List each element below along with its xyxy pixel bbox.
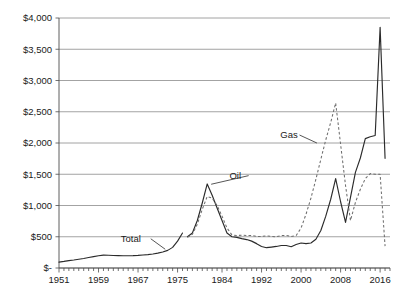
x-tick-label-1959: 1959 <box>88 274 109 285</box>
x-tick-label-2000: 2000 <box>291 274 312 285</box>
y-axis-tick-labels: $-$500$1,000$1,500$2,000$2,500$3,000$3,5… <box>23 12 52 273</box>
total-label: Total <box>121 233 141 244</box>
x-tick-label-1967: 1967 <box>127 274 148 285</box>
y-tick-label-500: $500 <box>31 231 52 242</box>
y-tick-label-1000: $1,000 <box>23 200 52 211</box>
gas-label: Gas <box>280 129 298 140</box>
y-tick-label-3000: $3,000 <box>23 75 52 86</box>
y-tick-label-1500: $1,500 <box>23 169 52 180</box>
y-tick-label-2500: $2,500 <box>23 106 52 117</box>
x-tick-label-1951: 1951 <box>48 274 69 285</box>
x-tick-label-2016: 2016 <box>370 274 391 285</box>
axis-tick-marks <box>56 18 391 273</box>
series-annotations: TotalOilGas <box>121 129 317 249</box>
line-chart-figure: $-$500$1,000$1,500$2,000$2,500$3,000$3,5… <box>0 0 415 302</box>
chart-canvas: $-$500$1,000$1,500$2,000$2,500$3,000$3,5… <box>0 0 415 302</box>
x-tick-label-1984: 1984 <box>211 274 232 285</box>
y-tick-label-4000: $4,000 <box>23 12 52 23</box>
y-tick-label-0: $- <box>44 262 52 273</box>
gas-label-leader <box>300 135 317 143</box>
y-tick-label-3500: $3,500 <box>23 44 52 55</box>
data-series <box>59 27 385 262</box>
total-label-leader <box>151 239 165 250</box>
x-tick-label-1992: 1992 <box>251 274 272 285</box>
x-tick-label-2008: 2008 <box>330 274 351 285</box>
x-tick-label-1975: 1975 <box>167 274 188 285</box>
y-tick-label-2000: $2,000 <box>23 137 52 148</box>
x-axis-tick-labels: 195119591967197519841992200020082016 <box>48 274 390 285</box>
